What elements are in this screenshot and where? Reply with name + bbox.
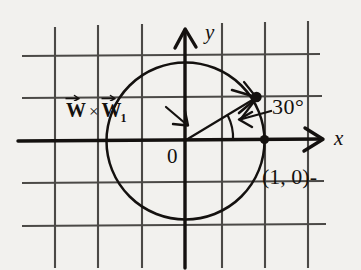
point-label: (1, 0)- — [262, 166, 317, 188]
vector-w1-label: W1 — [102, 98, 127, 124]
x-axis-label: x — [334, 128, 343, 149]
vector-w1-subscript: 1 — [121, 111, 127, 125]
point-one-zero — [260, 135, 269, 144]
figure-canvas — [0, 0, 361, 270]
origin-label: 0 — [167, 146, 178, 167]
y-axis-label: y — [205, 22, 214, 43]
angle-label: 30° — [272, 96, 304, 118]
vector-w-label: W — [66, 98, 86, 120]
vector-w1-text: W — [102, 99, 122, 121]
math-figure: y x 0 30° (1, 0)- W × W1 — [0, 0, 361, 270]
point-on-circle — [251, 92, 261, 102]
vector-w-text: W — [66, 99, 86, 121]
cross-product-operator: × — [86, 102, 102, 121]
point-label-text: (1, 0) — [262, 164, 310, 189]
point-label-trailing-dash: - — [310, 164, 317, 189]
vector-cross-product-label: W × W1 — [66, 98, 127, 124]
angle-arc — [228, 116, 233, 140]
